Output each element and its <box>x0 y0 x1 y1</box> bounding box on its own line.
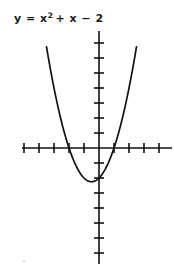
equation-title-exponent: 2 <box>48 11 54 20</box>
equation-title-rhs: + x − 2 <box>55 12 103 25</box>
scan-artifact-dot <box>23 260 25 262</box>
figure-background <box>0 0 174 273</box>
equation-title-lhs: y = x <box>14 12 48 25</box>
equation-title: y = x2+ x − 2 <box>14 11 104 25</box>
parabola-graph-figure: y = x2+ x − 2 <box>0 0 174 273</box>
